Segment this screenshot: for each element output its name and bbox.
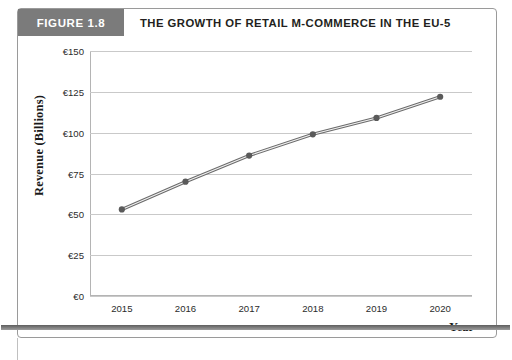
x-tick-label: 2016 (175, 303, 196, 314)
figure-title-box: THE GROWTH OF RETAIL M-COMMERCE IN THE E… (124, 9, 496, 36)
figure-title-label: THE GROWTH OF RETAIL M-COMMERCE IN THE E… (140, 17, 451, 29)
gridline (90, 296, 472, 297)
page-edge-line (17, 338, 18, 360)
y-tick-label: €50 (68, 209, 84, 220)
y-tick-label: €125 (63, 86, 84, 97)
data-point-marker (373, 115, 379, 121)
chart-body: Revenue (Billions) €0€25€50€75€100€125€1… (18, 36, 496, 338)
x-tick-label: 2020 (429, 303, 450, 314)
x-tick-label: 2015 (111, 303, 132, 314)
series-line-outer (122, 97, 440, 210)
figure-number-box: FIGURE 1.8 (18, 9, 124, 36)
x-tick-label: 2018 (302, 303, 323, 314)
data-point-marker (119, 206, 125, 212)
y-tick-label: €100 (63, 127, 84, 138)
data-point-marker (246, 152, 252, 158)
y-tick-label: €75 (68, 168, 84, 179)
figure-header: FIGURE 1.8 THE GROWTH OF RETAIL M-COMMER… (18, 9, 496, 36)
y-axis-title: Revenue (Billions) (32, 81, 47, 211)
figure-number-label: FIGURE 1.8 (37, 17, 106, 29)
y-tick-label: €25 (68, 250, 84, 261)
data-point-marker (182, 179, 188, 185)
footer-rule (1, 325, 510, 330)
x-tick-label: 2019 (366, 303, 387, 314)
revenue-line-series (90, 51, 472, 296)
y-tick-label: €150 (63, 46, 84, 57)
y-tick-label: €0 (73, 291, 84, 302)
x-tick-label: 2017 (238, 303, 259, 314)
plot-area: €0€25€50€75€100€125€150 2015201620172018… (90, 51, 472, 296)
figure-frame: FIGURE 1.8 THE GROWTH OF RETAIL M-COMMER… (17, 8, 497, 338)
data-point-marker (437, 94, 443, 100)
data-point-marker (310, 131, 316, 137)
